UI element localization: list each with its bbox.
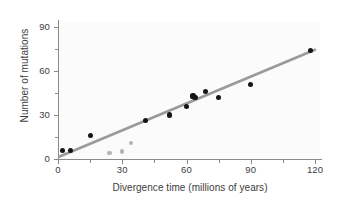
data-point — [107, 151, 111, 155]
y-tick — [54, 71, 58, 72]
scatter-plot-figure: 03060901200306090 Divergence time (milli… — [0, 0, 360, 204]
x-tick-label: 0 — [43, 164, 73, 175]
y-minor-tick — [55, 137, 58, 138]
x-axis-label: Divergence time (millions of years) — [58, 182, 322, 193]
y-tick-label: 0 — [22, 153, 50, 164]
y-tick — [54, 27, 58, 28]
data-point — [167, 112, 172, 117]
x-minor-tick — [283, 160, 284, 163]
x-tick-label: 30 — [107, 164, 137, 175]
x-tick-label: 90 — [236, 164, 266, 175]
y-axis-label: Number of mutations — [19, 1, 30, 151]
y-minor-tick — [55, 93, 58, 94]
data-point — [129, 141, 133, 145]
y-tick — [54, 159, 58, 160]
y-tick — [54, 115, 58, 116]
data-point — [60, 148, 65, 153]
y-minor-tick — [55, 49, 58, 50]
x-minor-tick — [90, 160, 91, 163]
data-point — [184, 104, 189, 109]
x-minor-tick — [154, 160, 155, 163]
x-minor-tick — [219, 160, 220, 163]
x-tick-label: 120 — [300, 164, 330, 175]
data-point — [88, 133, 93, 138]
data-point — [192, 95, 197, 100]
x-tick-label: 60 — [172, 164, 202, 175]
